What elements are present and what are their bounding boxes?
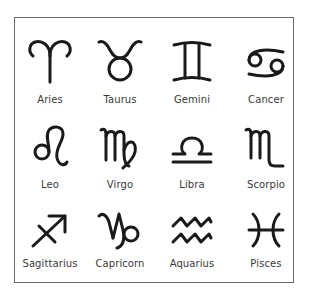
pisces-icon [241, 210, 291, 250]
capricorn-icon [95, 210, 145, 250]
libra-icon [167, 124, 217, 170]
sign-pisces: Pisces [229, 210, 303, 250]
sign-scorpio: Scorpio [229, 124, 303, 170]
sign-leo: Leo [13, 124, 87, 170]
gemini-icon [167, 38, 217, 84]
sign-aquarius: Aquarius [155, 210, 229, 250]
virgo-icon [95, 124, 145, 170]
sign-label: Scorpio [229, 179, 303, 190]
sign-label: Aries [13, 94, 87, 105]
scorpio-icon [241, 124, 291, 170]
sign-label: Sagittarius [13, 258, 87, 269]
sign-label: Cancer [229, 94, 303, 105]
sign-gemini: Gemini [155, 38, 229, 84]
sign-aries: Aries [13, 38, 87, 84]
sign-taurus: Taurus [83, 38, 157, 84]
sign-label: Libra [155, 179, 229, 190]
cancer-icon [241, 38, 291, 84]
sign-virgo: Virgo [83, 124, 157, 170]
sign-label: Taurus [83, 94, 157, 105]
sign-label: Aquarius [155, 258, 229, 269]
sign-label: Capricorn [83, 258, 157, 269]
sign-libra: Libra [155, 124, 229, 170]
leo-icon [25, 124, 75, 170]
aries-icon [25, 38, 75, 84]
taurus-icon [95, 38, 145, 84]
sign-capricorn: Capricorn [83, 210, 157, 250]
sign-label: Leo [13, 179, 87, 190]
sign-label: Virgo [83, 179, 157, 190]
sign-label: Pisces [229, 258, 303, 269]
sign-sagittarius: Sagittarius [13, 210, 87, 250]
sign-label: Gemini [155, 94, 229, 105]
sign-cancer: Cancer [229, 38, 303, 84]
aquarius-icon [167, 210, 217, 250]
sagittarius-icon [25, 210, 75, 250]
